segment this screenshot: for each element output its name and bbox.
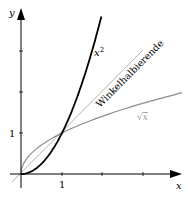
y-axis-arrow-icon (17, 8, 25, 20)
y-tick-label-1: 1 (9, 128, 15, 139)
diagonal-label: Winkelhalbierende (94, 37, 166, 109)
diagonal-line (12, 50, 143, 182)
parabola-curve (21, 17, 101, 175)
parabola-label: x2 (94, 46, 104, 58)
sqrt-label: √x (137, 112, 148, 122)
x-axis-arrow-icon (170, 170, 182, 178)
y-axis-label: y (8, 7, 15, 18)
function-plot: y x 1 1 x2 Winkelhalbierende √x (0, 0, 188, 198)
x-axis-label: x (176, 180, 182, 191)
x-tick-label-1: 1 (59, 179, 65, 190)
